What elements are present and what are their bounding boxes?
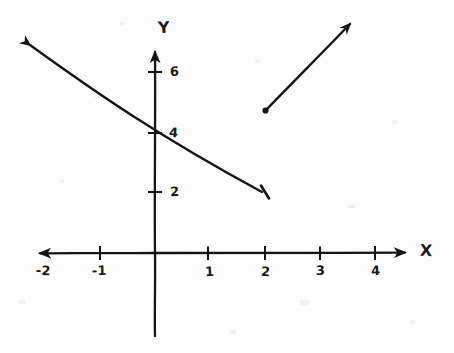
x-tick-label-neg2: -2 [36, 264, 51, 277]
x-tick-label-1: 1 [205, 265, 215, 278]
y-tick-label-4: 4 [169, 126, 179, 140]
rising-ray-group [262, 24, 350, 114]
graph-sketch-page: Y X 6 4 2 -2 -1 1 2 3 4 [0, 0, 454, 353]
y-tick-label-6: 6 [170, 65, 179, 78]
x-tick-label-4: 4 [371, 264, 381, 277]
y-tick-label-2: 2 [170, 185, 180, 198]
rising-ray-start-point [262, 107, 268, 113]
coordinate-plane-drawing [0, 0, 454, 353]
x-axis-name-label: X [420, 243, 433, 259]
x-axis-group [40, 246, 405, 260]
descending-line [30, 45, 262, 192]
rising-ray [266, 24, 350, 110]
y-axis-name-label: Y [158, 20, 170, 37]
x-tick-label-3: 3 [316, 264, 325, 277]
x-tick-label-2: 2 [261, 265, 271, 279]
y-axis-group [148, 52, 162, 336]
x-tick-label-neg1: -1 [92, 264, 107, 277]
descending-line-group [30, 45, 269, 199]
